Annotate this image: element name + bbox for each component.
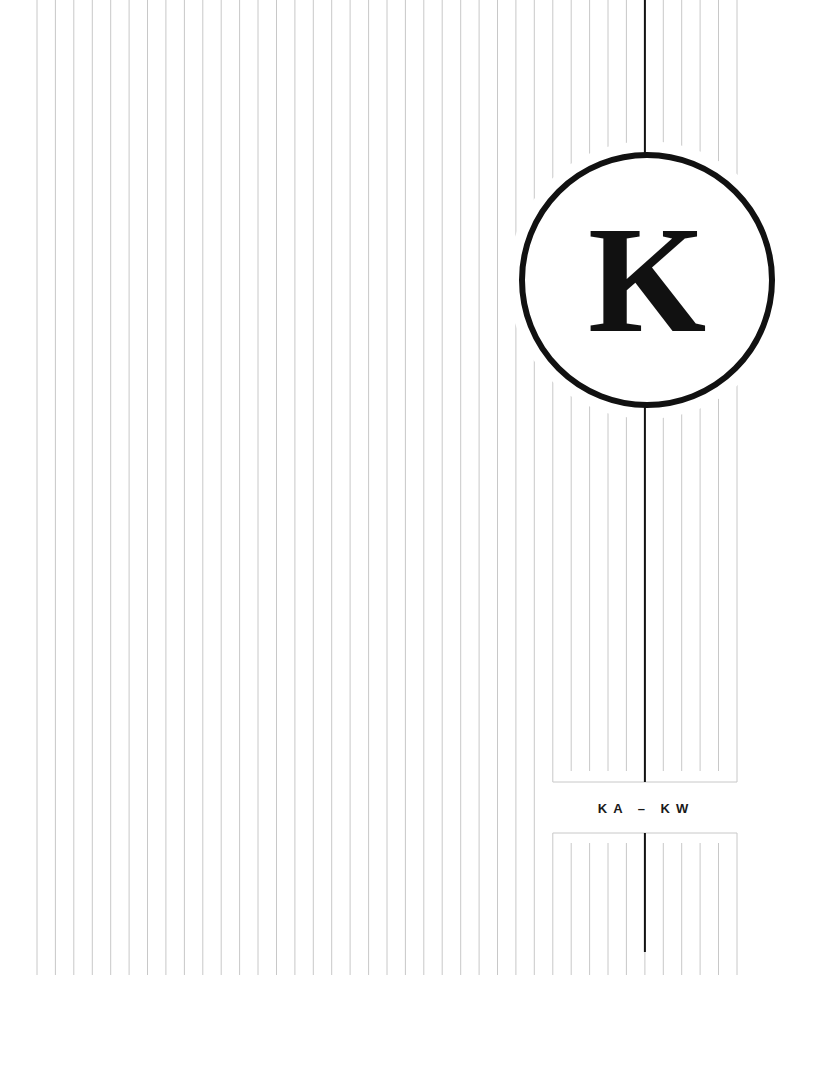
section-letter: K	[521, 154, 773, 406]
range-label: KA – KW	[549, 798, 737, 820]
